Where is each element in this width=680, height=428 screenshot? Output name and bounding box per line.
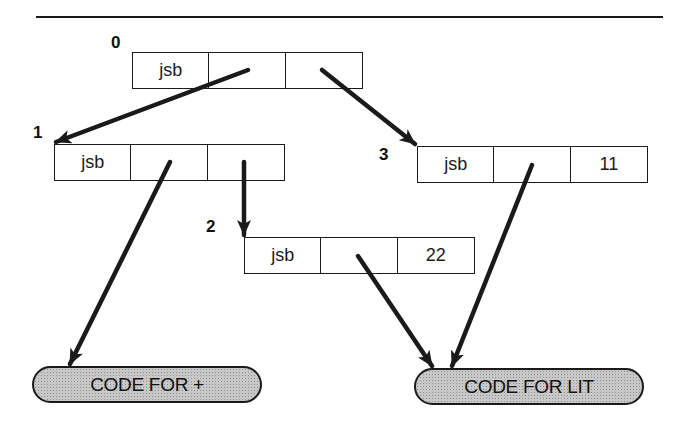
node-3-cell-value: 11 (571, 147, 647, 182)
node-1-record: jsb (54, 144, 285, 181)
node-2-record: jsb 22 (244, 237, 475, 274)
node-2-cell-pointer (321, 238, 397, 273)
diagram-canvas: 0 jsb 1 jsb 2 jsb 22 3 jsb 11 CODE FOR +… (0, 0, 680, 428)
node-2-label: 2 (206, 218, 215, 235)
node-1-cell-pointer-b (208, 145, 284, 180)
top-rule-divider (36, 16, 663, 18)
code-block-lit: CODE FOR LIT (414, 368, 644, 405)
node-3-cell-pointer (494, 147, 570, 182)
node-0-label: 0 (111, 34, 120, 51)
node-3-record: jsb 11 (417, 146, 648, 183)
node-3-cell-opcode: jsb (418, 147, 494, 182)
node-2-cell-opcode: jsb (245, 238, 321, 273)
node-0-cell-pointer-b (286, 53, 362, 88)
node-0-cell-opcode: jsb (133, 53, 209, 88)
node-1-cell-pointer-a (131, 145, 207, 180)
code-block-plus: CODE FOR + (32, 366, 262, 403)
node-1-cell-opcode: jsb (55, 145, 131, 180)
node-1-label: 1 (33, 124, 42, 141)
node-0-cell-pointer-a (209, 53, 285, 88)
node-2-cell-value: 22 (398, 238, 474, 273)
node-3-label: 3 (379, 146, 388, 163)
node-0-record: jsb (132, 52, 363, 89)
edge-1-to-code-plus (70, 162, 170, 364)
